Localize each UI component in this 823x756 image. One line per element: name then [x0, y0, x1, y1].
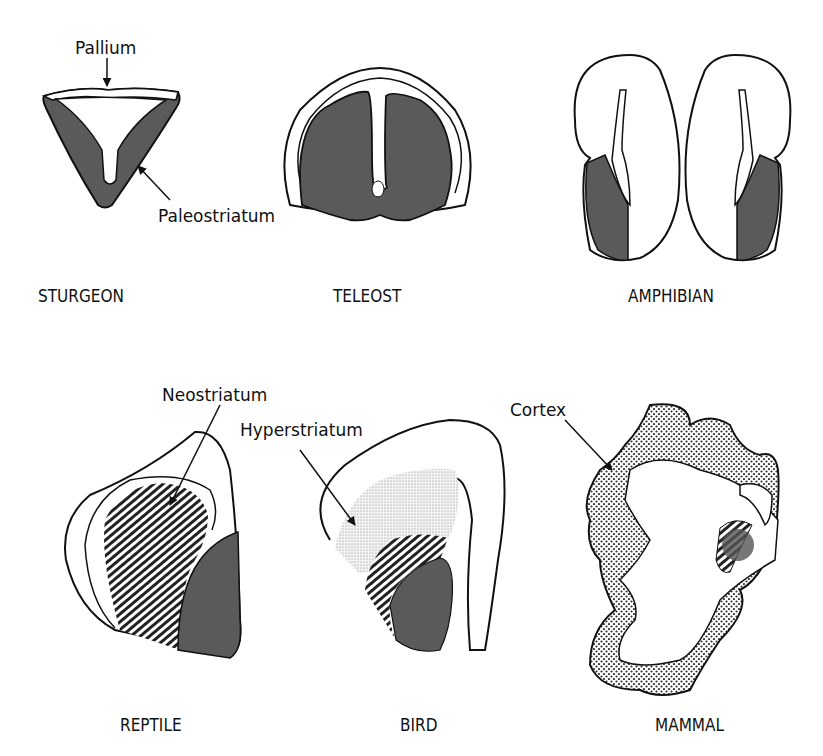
sturgeon-section — [43, 58, 179, 208]
mammal-section — [565, 404, 779, 695]
label-bird: BIRD — [400, 715, 437, 735]
brain-evolution-diagram — [0, 0, 823, 756]
label-teleost: TELEOST — [333, 286, 401, 306]
label-sturgeon: STURGEON — [38, 286, 124, 306]
amphibian-section — [575, 55, 791, 260]
bird-section — [300, 420, 505, 651]
label-paleostriatum: Paleostriatum — [158, 206, 275, 226]
label-reptile: REPTILE — [120, 715, 182, 735]
label-amphibian: AMPHIBIAN — [628, 286, 714, 306]
teleost-section — [284, 68, 470, 220]
reptile-section — [65, 405, 241, 658]
label-pallium: Pallium — [75, 38, 136, 58]
label-hyperstriatum: Hyperstriatum — [240, 420, 363, 440]
label-cortex: Cortex — [510, 400, 566, 420]
label-mammal: MAMMAL — [655, 715, 724, 735]
label-neostriatum: Neostriatum — [162, 385, 267, 405]
